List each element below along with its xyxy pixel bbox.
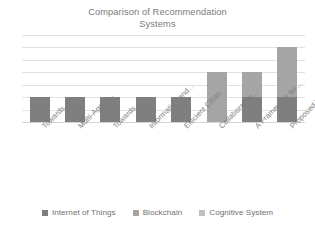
legend-label: Blockchain (143, 208, 183, 217)
chart-container: Comparison of Recommendation Systems Tow… (0, 0, 315, 225)
legend-item[interactable]: Blockchain (133, 208, 183, 217)
bar-group[interactable] (30, 35, 50, 122)
legend-label: Cognitive System (209, 208, 273, 217)
legend-swatch-icon (42, 210, 48, 216)
chart-legend: Internet of ThingsBlockchainCognitive Sy… (0, 208, 315, 217)
bar-group[interactable] (65, 35, 85, 122)
legend-label: Internet of Things (52, 208, 116, 217)
legend-swatch-icon (199, 210, 205, 216)
chart-title: Comparison of Recommendation Systems (0, 7, 315, 30)
bar-group[interactable] (242, 35, 262, 122)
bar-group[interactable] (136, 35, 156, 122)
legend-item[interactable]: Cognitive System (199, 208, 273, 217)
legend-item[interactable]: Internet of Things (42, 208, 116, 217)
chart-title-line-2: Systems (0, 19, 315, 31)
x-axis-labels: Towards…Multi-Agent…Towards…Information … (22, 122, 305, 192)
legend-swatch-icon (133, 210, 139, 216)
chart-title-line-1: Comparison of Recommendation (0, 7, 315, 19)
